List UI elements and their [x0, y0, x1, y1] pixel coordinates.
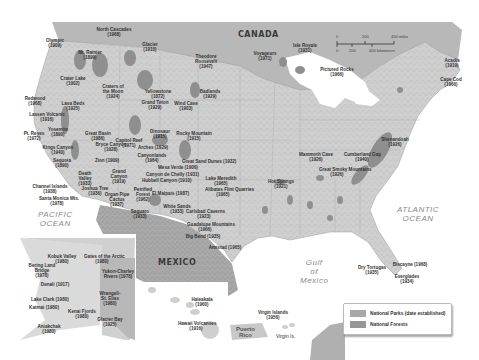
mexico-label: MEXICO	[158, 258, 196, 267]
park-label: Carlsbad Caverns (1923)	[186, 209, 222, 219]
park-label: Canyonlands (1964)	[134, 153, 170, 163]
park-label: North Cascades (1968)	[96, 27, 132, 37]
park-label: Great Sand Dunes (1932)	[182, 159, 218, 164]
atlantic-ocean-label: ATLANTIC OCEAN	[397, 205, 439, 223]
park-label: Death Valley (1933)	[67, 171, 103, 186]
park-label: Glacier Bay (1925)	[92, 317, 128, 327]
park-label: Badlands (1929)	[192, 89, 228, 99]
park-label: Mt. Rainier (1899)	[72, 50, 108, 60]
park-label: Lassen Volcanic (1916)	[29, 112, 65, 122]
canada-label: CANADA	[238, 30, 279, 39]
park-label: Hubbell Canyon (1910)	[142, 178, 178, 183]
pacific-ocean-label: PACIFIC OCEAN	[38, 210, 72, 228]
park-label: Lava Beds (1925)	[55, 101, 91, 111]
park-label: Denali (1917)	[37, 282, 73, 287]
park-label: Bryce Canyon (1928)	[93, 142, 129, 152]
park-label: Lake Clark (1980)	[31, 297, 67, 302]
virgin-is-label: Virgin Is.	[276, 334, 295, 339]
park-label: Everglades (1934)	[389, 274, 425, 284]
park-label: Zion (1909)	[89, 158, 125, 163]
park-label: Crater Lake (1902)	[55, 76, 91, 86]
park-label: Aniakchak (1980)	[31, 324, 67, 334]
gulf-of-mexico-label: Gulf of Mexico	[300, 258, 328, 285]
parks-swatch	[350, 310, 366, 317]
scale-labels: 0 200 400 miles 0 200 400 kilometers	[337, 34, 415, 54]
park-label: Hawaii Volcanoes (1916)	[178, 321, 214, 331]
park-label: Dinosaur (1915)	[142, 129, 178, 139]
park-label: Canyon de Chelly (1931)	[146, 172, 182, 177]
park-label: Big Bend (1935)	[185, 234, 221, 239]
park-label: Redwood (1968)	[17, 96, 53, 106]
park-label: Arches (1929)	[135, 145, 171, 150]
park-label: Alibates Flint Quarries (1965)	[205, 187, 241, 197]
park-label: Olympic (1909)	[37, 38, 73, 48]
park-label: Wrangell- St. Elias (1980)	[92, 291, 128, 306]
park-label: Wind Cave (1903)	[168, 101, 204, 111]
park-label: Haleakala (1960)	[184, 297, 220, 307]
legend-item-parks: National Parks (date established)	[350, 309, 445, 317]
park-label: Dry Tortugas (1935)	[354, 265, 390, 275]
park-label: Santa Monica Mts. (1978)	[39, 196, 75, 206]
park-label: Virgin Islands (1956)	[255, 310, 291, 320]
park-label: Sequoia (1890)	[44, 158, 80, 168]
park-label: Isle Royale (1931)	[287, 43, 323, 53]
park-label: Channel Islands (1938)	[32, 184, 68, 194]
park-label: Pictured Rocks (1966)	[319, 67, 355, 77]
park-label: El Malpais (1987)	[152, 191, 188, 196]
park-label: Cumberland Gap (1940)	[344, 152, 380, 162]
park-label: Guadalupe Mountains (1966)	[187, 222, 223, 232]
forests-swatch	[350, 321, 366, 328]
park-label: Voyageurs (1971)	[247, 51, 283, 61]
park-label: Mammoth Cave (1926)	[298, 152, 334, 162]
park-label: Craters of the Moon (1924)	[95, 84, 131, 99]
park-label: Yellowstone (1872)	[140, 89, 176, 99]
park-label: Theodore Roosevelt (1947)	[188, 54, 224, 69]
park-label: Yukon-Charley Rivers (1978)	[100, 269, 136, 279]
park-label: Katmai (1980)	[26, 305, 62, 310]
park-label: Shenandoah (1926)	[377, 137, 413, 147]
park-label: Lake Meredith (1965)	[203, 176, 239, 186]
park-label: Mesa Verde (1906)	[158, 165, 194, 170]
park-label: Glacier (1910)	[132, 42, 168, 52]
park-label: Biscayne (1968)	[392, 262, 428, 267]
park-label: Acadia (1919)	[434, 58, 470, 68]
puerto-rico-label: Puerto Rico	[236, 326, 255, 338]
park-label: Grand Canyon (1919)	[101, 169, 137, 184]
park-label: Rocky Mountain (1915)	[176, 131, 212, 141]
park-label: Great Smoky Mountains (1926)	[319, 167, 355, 177]
legend-item-forests: National Forests	[350, 320, 408, 328]
park-label: Kings Canyon (1940)	[40, 145, 76, 155]
park-label: Saguaro (1933)	[122, 209, 158, 219]
park-label: Amistad (1965)	[207, 245, 243, 250]
park-label: Bering Land Bridge (1978)	[24, 263, 60, 278]
park-label: Hot Springs (1921)	[263, 179, 299, 189]
park-label: Pt. Reyes (1972)	[16, 131, 52, 141]
park-label: Cape Cod (1966)	[433, 77, 469, 87]
map-legend: National Parks (date established) Nation…	[343, 303, 452, 335]
park-label: Gates of the Arctic (1980)	[84, 254, 120, 264]
